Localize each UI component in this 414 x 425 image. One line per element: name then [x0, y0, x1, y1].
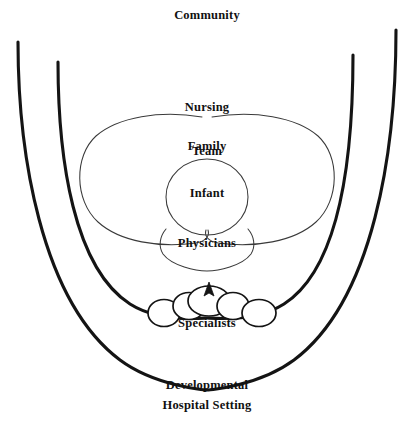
diagram-canvas: Community Nursing Team Family Infant Phy… — [0, 0, 414, 425]
label-hospital-setting: Hospital Setting — [0, 398, 414, 413]
label-physicians: Physicians — [0, 236, 414, 251]
label-nursing-team: Nursing Team — [0, 70, 414, 188]
label-developmental-team-line1: Developmental — [0, 378, 414, 393]
label-family: Family — [0, 139, 414, 154]
label-community: Community — [0, 8, 414, 23]
label-developmental-team: Developmental Team — [0, 348, 414, 425]
label-nursing-team-line1: Nursing — [0, 100, 414, 115]
label-specialists: Specialists — [0, 316, 414, 331]
label-infant: Infant — [0, 186, 414, 201]
